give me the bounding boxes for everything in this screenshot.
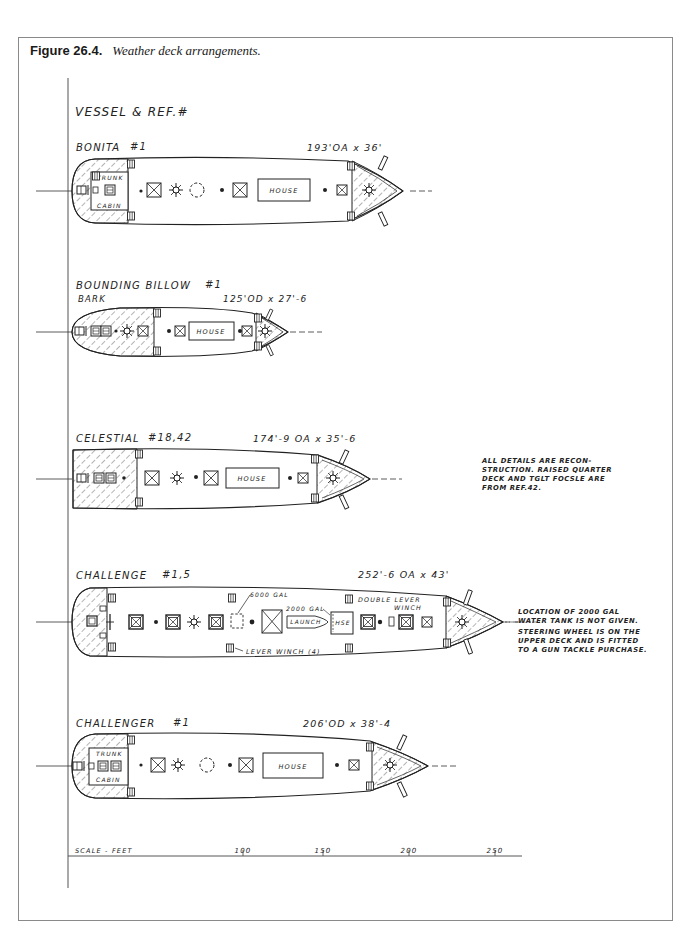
- vessel-name: BONITA: [76, 142, 120, 153]
- house-label: HOUSE: [238, 475, 267, 483]
- cabin-label: CABIN: [96, 776, 121, 783]
- note-challenge-wheel-2: UPPER DECK AND IS FITTED: [518, 637, 639, 645]
- note-celestial-1: ALL DETAILS ARE RECON-: [481, 457, 592, 465]
- vessel-dimensions: 206'OD x 38'-4: [303, 718, 391, 729]
- scale-tick-250: 250: [487, 847, 504, 855]
- scale-tick-200: 200: [401, 847, 418, 855]
- note-challenge-wheel-1: STEERING WHEEL IS ON THE: [518, 628, 640, 636]
- header-label: VESSEL & REF.#: [75, 105, 189, 119]
- double-winch-label-2: WINCH: [394, 604, 422, 611]
- vessel-ref: #1: [205, 279, 222, 290]
- house-label: HOUSE: [197, 328, 226, 336]
- double-winch-label: DOUBLE LEVER: [358, 596, 421, 603]
- note-celestial-4: FROM REF.42.: [482, 484, 542, 492]
- trunk-label: TRUNK: [97, 174, 124, 181]
- note-challenge-tank-1: LOCATION OF 2000 GAL: [518, 608, 620, 616]
- vessel-ref: #1,5: [162, 569, 191, 580]
- house-label: HOUSE: [279, 763, 308, 771]
- vessel-name: CHALLENGE: [76, 570, 147, 581]
- vessel-celestial: CELESTIAL #18,42 174'-9 OA x 35'-6 HOUSE: [36, 432, 402, 509]
- vessel-name: CHALLENGER: [76, 718, 155, 729]
- scale-tick-100: 100: [235, 847, 252, 855]
- vessel-bounding-billow: BOUNDING BILLOW #1 BARK 125'OD x 27'-6 H…: [36, 279, 322, 356]
- house-label: HOUSE: [270, 187, 299, 195]
- trunk-label: TRUNK: [96, 750, 123, 757]
- vessel-ref: #1: [173, 717, 190, 728]
- vessel-name: CELESTIAL: [76, 433, 140, 444]
- deck-arrangement-drawing: VESSEL & REF.# BONITA #1 193'OA x 36' TR…: [0, 0, 690, 943]
- vessel-ref: #1: [130, 141, 147, 152]
- vessel-bonita: BONITA #1 193'OA x 36' TRUNK CABIN HOUSE: [36, 141, 432, 226]
- note-celestial-3: DECK AND TGLT FOCSLE ARE: [482, 475, 605, 483]
- tank-6000-label: 6000 GAL: [250, 591, 289, 598]
- hse-label: HSE: [335, 619, 351, 626]
- scale-bar: SCALE - FEET 100 150 200 250: [68, 847, 522, 856]
- vessel-dimensions: 252'-6 OA x 43': [358, 569, 450, 580]
- vessel-challenge: CHALLENGE #1,5 252'-6 OA x 43' 6000 GAL: [36, 569, 520, 657]
- note-celestial-2: STRUCTION. RAISED QUARTER: [482, 466, 612, 474]
- vessel-ref: #18,42: [148, 432, 192, 443]
- note-challenge-tank-2: WATER TANK IS NOT GIVEN.: [518, 617, 638, 625]
- vessel-dimensions: 193'OA x 36': [307, 142, 382, 153]
- cabin-label: CABIN: [97, 202, 122, 209]
- scale-tick-150: 150: [315, 847, 332, 855]
- lever-winch-label: LEVER WINCH (4): [246, 648, 321, 656]
- tank-2000-label: 2000 GAL: [286, 605, 325, 612]
- vessel-name: BOUNDING BILLOW: [76, 280, 191, 291]
- vessel-dimensions: 125'OD x 27'-6: [223, 294, 307, 304]
- scale-label: SCALE - FEET: [75, 847, 133, 855]
- vessel-challenger: CHALLENGER #1 206'OD x 38'-4 TRUNK CABIN…: [36, 717, 456, 799]
- launch-label: LAUNCH: [290, 619, 321, 625]
- note-challenge-wheel-3: TO A GUN TACKLE PURCHASE.: [518, 646, 647, 654]
- vessel-rig: BARK: [78, 294, 106, 304]
- vessel-dimensions: 174'-9 OA x 35'-6: [253, 433, 356, 444]
